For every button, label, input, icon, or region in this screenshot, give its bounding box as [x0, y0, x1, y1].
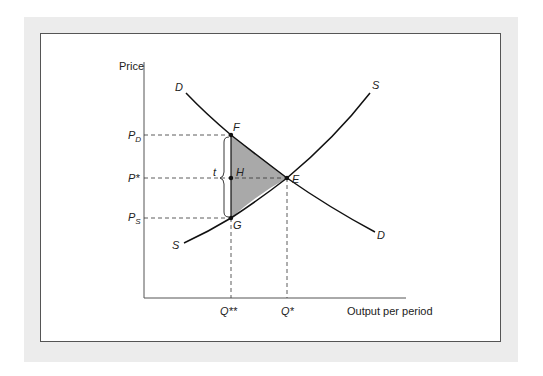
supply-label-start: S	[172, 239, 180, 251]
demand-curve	[186, 93, 375, 232]
tax-label: t	[213, 166, 217, 178]
point-h-label: H	[236, 166, 244, 178]
qdoublestar-label: Q**	[220, 305, 238, 317]
pd-label: PD	[128, 129, 141, 144]
point-e-label: E	[292, 173, 300, 185]
qstar-label: Q*	[281, 305, 295, 317]
supply-label-end: S	[372, 79, 380, 91]
ps-label: PS	[128, 211, 141, 226]
pstar-label: P*	[128, 172, 140, 184]
point-h	[229, 176, 233, 180]
supply-curve	[184, 93, 370, 243]
point-e	[285, 176, 289, 180]
tax-brace	[220, 137, 229, 217]
point-f-label: F	[233, 121, 241, 133]
demand-label-start: D	[175, 81, 183, 93]
y-axis-label: Price	[119, 60, 144, 72]
x-axis-label: Output per period	[347, 305, 433, 317]
point-f	[229, 133, 233, 137]
supply-demand-diagram: Price Output per period PD P* PS Q** Q* …	[0, 0, 543, 376]
demand-label-end: D	[377, 229, 385, 241]
point-g-label: G	[233, 219, 242, 231]
